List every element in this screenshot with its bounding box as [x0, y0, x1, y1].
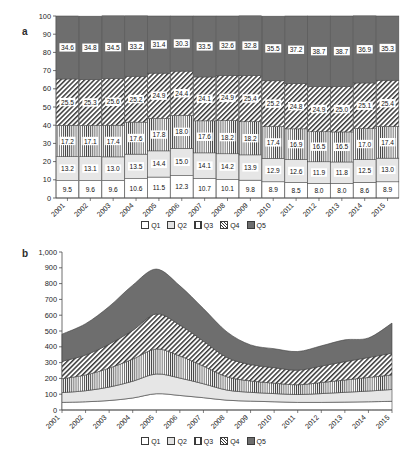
legend-item-q1[interactable]: Q1 [141, 221, 160, 229]
bar-data-label: 11.5 [153, 184, 166, 191]
legend-item-q5[interactable]: Q5 [247, 221, 266, 229]
bar-data-label: 12.5 [358, 167, 371, 174]
legend-item-q3[interactable]: Q3 [194, 221, 213, 229]
panel-b-ytick-label: 300 [45, 358, 57, 367]
bar-data-label: 17.1 [84, 138, 97, 145]
bar-data-label: 10.7 [198, 185, 211, 192]
panel-a-ytick-label: 60 [43, 84, 51, 93]
panel-a-xtick-label: 2008 [209, 201, 227, 219]
panel-a-xtick-label: 2007 [186, 201, 204, 219]
panel-b-ytick-label: 700 [45, 295, 57, 304]
panel-a-xtick-label: 2012 [301, 201, 319, 219]
legend-item-q2[interactable]: Q2 [167, 221, 186, 229]
bar-data-label: 25.4 [244, 95, 257, 102]
bar-data-label: 24.4 [175, 90, 188, 97]
bar-data-label: 33.5 [198, 43, 211, 50]
panel-a-plot: 0102030405060708090100 9.513.217.225.534… [0, 0, 407, 240]
bar-data-label: 11.9 [313, 169, 326, 176]
panel-b-xtick-label: 2010 [256, 413, 274, 431]
legend-item-q5[interactable]: Q5 [247, 437, 266, 445]
panel-b-xtick-label: 2011 [280, 413, 297, 430]
bar-data-label: 8.6 [360, 187, 369, 194]
legend-item-q1[interactable]: Q1 [141, 437, 160, 445]
legend-item-q3[interactable]: Q3 [194, 437, 213, 445]
bar-data-label: 25.1 [358, 102, 371, 109]
bar-data-label: 34.6 [61, 44, 74, 51]
panel-b-xtick-label: 2012 [303, 413, 321, 431]
bar-data-label: 38.7 [335, 48, 348, 55]
bar-data-label: 12.3 [175, 183, 188, 190]
panel-a-xtick-label: 2004 [118, 201, 136, 219]
bar-data-label: 13.9 [244, 164, 257, 171]
panel-b-xtick-label: 2004 [114, 413, 132, 431]
bar-data-label: 12.9 [267, 167, 280, 174]
bar-data-label: 14.1 [198, 162, 211, 169]
panel-a-ytick-label: 20 [43, 157, 51, 166]
bar-data-label: 24.9 [221, 94, 234, 101]
legend-label-q4: Q4 [230, 438, 239, 445]
bar-data-label: 10.1 [221, 185, 234, 192]
bar-data-label: 10.6 [130, 185, 143, 192]
bar-data-label: 9.6 [86, 186, 95, 193]
legend-item-q2[interactable]: Q2 [167, 437, 186, 445]
legend-label-q3: Q3 [204, 438, 213, 445]
legend-item-q4[interactable]: Q4 [220, 437, 239, 445]
panel-a-ytick-label: 30 [43, 139, 51, 148]
panel-b-ytick-label: 500 [45, 327, 57, 336]
bar-data-label: 8.9 [269, 186, 278, 193]
panel-b-ytick-label: 600 [45, 311, 57, 320]
bar-data-label: 25.2 [267, 100, 280, 107]
bar-data-label: 24.9 [313, 106, 326, 113]
light-gray-square-icon [167, 437, 175, 445]
bar-data-label: 17.4 [107, 138, 120, 145]
bar-data-label: 9.8 [246, 186, 255, 193]
legend-item-q4[interactable]: Q4 [220, 221, 239, 229]
legend-label-q4: Q4 [230, 222, 239, 229]
bar-data-label: 25.2 [130, 96, 143, 103]
dark-gray-square-icon [247, 221, 255, 229]
bar-data-label: 13.0 [381, 166, 394, 173]
bar-data-label: 12.6 [290, 168, 303, 175]
bar-data-label: 8.0 [337, 187, 346, 194]
vertical-stripe-square-icon [194, 221, 202, 229]
bar-data-label: 14.4 [152, 160, 165, 167]
legend-label-q1: Q1 [151, 222, 160, 229]
dark-gray-square-icon [247, 437, 255, 445]
bar-data-label: 24.9 [152, 92, 165, 99]
panel-b-xtick-label: 2002 [67, 413, 85, 431]
panel-b-ytick-label: 400 [45, 342, 57, 351]
bar-data-label: 33.2 [130, 43, 143, 50]
white-square-icon [141, 221, 149, 229]
panel-b-xtick-label: 2008 [209, 413, 227, 431]
bar-data-label: 8.9 [383, 186, 392, 193]
panel-a-xtick-label: 2010 [255, 201, 273, 219]
legend-label-q3: Q3 [204, 222, 213, 229]
panel-b-ytick-label: 100 [45, 390, 57, 399]
panel-b-xtick-label: 2006 [162, 413, 180, 431]
panel-a-ytick-label: 90 [43, 30, 51, 39]
panel-a-xtick-label: 2006 [164, 201, 182, 219]
panel-b-xtick-label: 2015 [374, 413, 392, 431]
bar-data-label: 13.0 [107, 165, 120, 172]
panel-a-xtick-label: 2013 [324, 201, 342, 219]
bar-data-label: 30.3 [175, 40, 188, 47]
bar-data-label: 13.5 [130, 163, 143, 170]
bar-data-label: 24.1 [198, 95, 211, 102]
panel-a-xtick-label: 2009 [232, 201, 250, 219]
bar-data-label: 18.2 [221, 134, 234, 141]
panel-b-plot: 01002003004005006007008009001,000 200120… [0, 240, 407, 459]
bar-data-label: 17.8 [152, 131, 165, 138]
panel-a-xtick-label: 2005 [141, 201, 159, 219]
panel-b-ytick-label: 200 [45, 374, 57, 383]
bar-data-label: 18.2 [244, 135, 257, 142]
panel-a-ytick-label: 40 [43, 121, 51, 130]
panel-a-ytick-label: 100 [39, 12, 51, 21]
bar-data-label: 35.5 [267, 45, 280, 52]
panel-a-xtick-label: 2015 [369, 201, 387, 219]
bar-data-label: 16.5 [313, 143, 326, 150]
panel-a-ytick-label: 10 [43, 175, 51, 184]
bar-data-label: 34.8 [84, 44, 97, 51]
legend-label-q1: Q1 [151, 438, 160, 445]
legend-label-q5: Q5 [257, 222, 266, 229]
bar-data-label: 17.2 [61, 138, 74, 145]
